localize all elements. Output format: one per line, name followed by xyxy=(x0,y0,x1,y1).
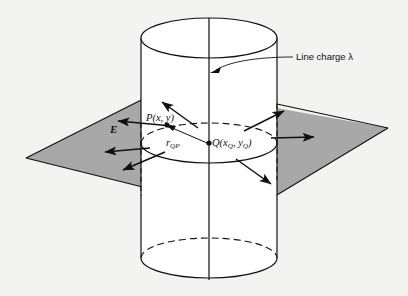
physics-diagram: Line charge λ P(x, y) Q(xQ, yQ) rQP E xyxy=(0,0,408,296)
cylinder-group xyxy=(141,18,277,280)
point-q-label: Q(xQ, yQ) xyxy=(212,138,251,150)
distance-r-qp-label: rQP xyxy=(166,138,180,150)
point-q-mid: , y xyxy=(233,137,243,148)
diagram-canvas xyxy=(0,0,408,296)
field-arrow-right xyxy=(271,137,314,138)
field-vector-label: E xyxy=(110,124,117,135)
distance-r-subscript: QP xyxy=(170,142,180,150)
point-q-prefix: Q(x xyxy=(212,137,228,148)
line-charge-label: Line charge λ xyxy=(296,52,353,62)
point-q-marker xyxy=(206,140,211,145)
point-p-label: P(x, y) xyxy=(146,113,174,124)
point-q-suffix: ) xyxy=(248,137,252,148)
